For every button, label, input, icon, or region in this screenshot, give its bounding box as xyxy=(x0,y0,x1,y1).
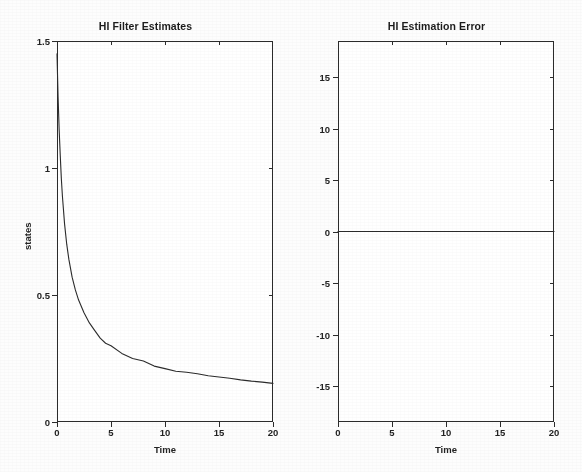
data-curve-filter-estimates xyxy=(0,0,291,472)
figure-page: HI Filter Estimates 0 5 10 15 20 xyxy=(0,0,582,472)
panel-filter-estimates: HI Filter Estimates 0 5 10 15 20 xyxy=(0,0,291,472)
panel-estimation-error: HI Estimation Error 0 5 10 15 20 xyxy=(291,0,582,472)
data-curve-estimation-error xyxy=(291,0,582,472)
figure-canvas: HI Filter Estimates 0 5 10 15 20 xyxy=(0,0,582,472)
